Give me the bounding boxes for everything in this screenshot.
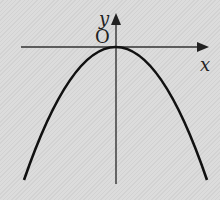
origin-label: O xyxy=(95,26,110,47)
parabola-figure: y x O xyxy=(0,0,220,200)
x-axis-arrow-icon xyxy=(197,42,209,52)
x-axis-label: x xyxy=(200,54,210,75)
graph-canvas xyxy=(0,0,220,200)
y-axis-arrow-icon xyxy=(111,13,121,25)
